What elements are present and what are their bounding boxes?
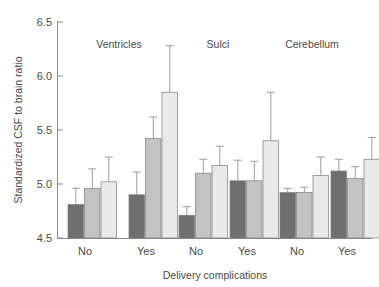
panel-title-ventricles: Ventricles bbox=[96, 38, 142, 50]
bar-light-cerebellum-yes bbox=[364, 159, 379, 238]
bar-medium-sulci-no bbox=[196, 173, 212, 238]
bar-group bbox=[280, 188, 296, 238]
panel-title-cerebellum: Cerebellum bbox=[285, 38, 339, 50]
x-category-label-6: Yes bbox=[338, 245, 356, 257]
y-tick-label-6.0: 6.0 bbox=[37, 70, 52, 82]
bar-dark-cerebellum-yes bbox=[331, 171, 347, 238]
bar-light-cerebellum-no bbox=[313, 175, 329, 238]
bar-dark-sulci-yes bbox=[230, 181, 246, 238]
y-tick-label-5.5: 5.5 bbox=[37, 124, 52, 136]
bar-dark-ventricles-yes bbox=[129, 195, 145, 238]
bar-medium-cerebellum-no bbox=[297, 193, 313, 238]
y-tick-label-4.5: 4.5 bbox=[37, 232, 52, 244]
bar-light-ventricles-yes bbox=[162, 92, 178, 238]
bar-medium-sulci-yes bbox=[247, 181, 263, 238]
x-axis-title: Delivery complications bbox=[163, 269, 267, 281]
y-axis-title: Standardized CSF to brain ratio bbox=[12, 56, 24, 203]
y-tick-label-5.0: 5.0 bbox=[37, 178, 52, 190]
bar-medium-cerebellum-yes bbox=[348, 179, 364, 238]
bar-dark-ventricles-no bbox=[68, 205, 84, 239]
chart-figure: 6.5 6.0 5.5 5.0 4.5 Standardized CSF to … bbox=[0, 0, 379, 287]
x-category-label-1: No bbox=[78, 245, 92, 257]
bar-chart-svg: 6.5 6.0 5.5 5.0 4.5 Standardized CSF to … bbox=[0, 0, 379, 287]
bar-medium-ventricles-no bbox=[85, 188, 101, 238]
bar-group bbox=[297, 187, 313, 238]
bar-light-ventricles-no bbox=[101, 182, 117, 238]
x-category-label-2: Yes bbox=[137, 245, 155, 257]
bar-dark-sulci-no bbox=[179, 215, 195, 238]
y-tick-label-6.5: 6.5 bbox=[37, 16, 52, 28]
bar-medium-ventricles-yes bbox=[146, 139, 162, 238]
bar-light-sulci-no bbox=[212, 166, 228, 238]
bar-group bbox=[331, 159, 347, 238]
x-category-label-4: Yes bbox=[238, 245, 256, 257]
x-category-label-5: No bbox=[290, 245, 304, 257]
bar-dark-cerebellum-no bbox=[280, 193, 296, 238]
bar-light-sulci-yes bbox=[263, 141, 279, 238]
x-category-label-3: No bbox=[189, 245, 203, 257]
panel-title-sulci: Sulci bbox=[207, 38, 230, 50]
